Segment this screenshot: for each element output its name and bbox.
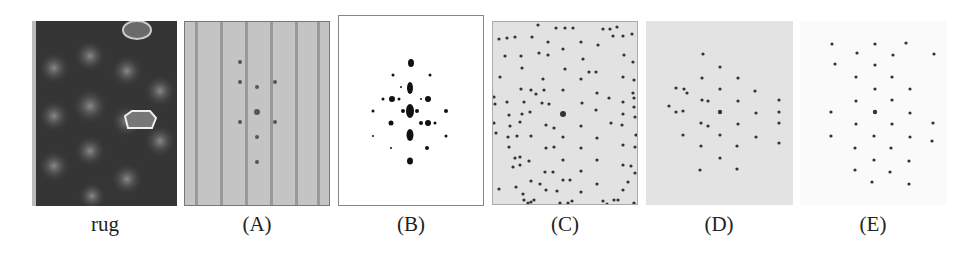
- panel-rug: [32, 21, 177, 206]
- panel-E: [800, 21, 946, 205]
- caption-E: (E): [800, 212, 946, 237]
- candidates-image: [493, 22, 637, 204]
- peaks-image: [339, 16, 483, 205]
- caption-B: (B): [338, 212, 484, 237]
- panel-B: [338, 15, 484, 206]
- caption-A: (A): [184, 212, 330, 237]
- caption-rug: rug: [32, 212, 178, 237]
- caption-C: (C): [492, 212, 638, 237]
- rug-image: [32, 21, 177, 206]
- lattice-image: [800, 21, 946, 205]
- filtered-peaks-image: [646, 21, 793, 205]
- autocorrelation-image: [185, 22, 329, 205]
- panel-A: [184, 21, 330, 206]
- panel-C: [492, 21, 638, 205]
- caption-D: (D): [646, 212, 792, 237]
- panel-D: [646, 21, 793, 205]
